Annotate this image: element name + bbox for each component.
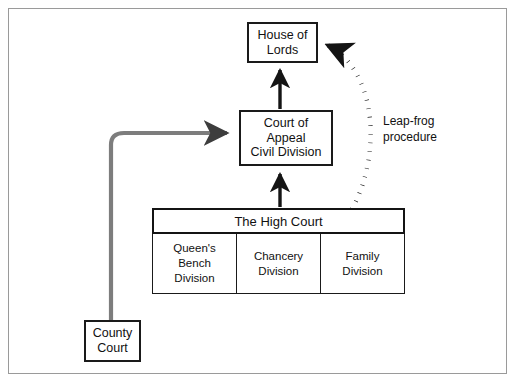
- division-queens-bench-line1: Queen's: [173, 241, 215, 256]
- node-court-of-appeal-line1: Court of: [264, 116, 308, 131]
- leapfrog-label-line2: procedure: [383, 129, 479, 145]
- division-family-line1: Family: [346, 249, 380, 264]
- leapfrog-procedure-label: Leap-frog procedure: [383, 113, 479, 145]
- diagram-canvas: House of Lords Court of Appeal Civil Div…: [0, 0, 518, 389]
- division-chancery-line1: Chancery: [254, 249, 303, 264]
- node-court-of-appeal-line3: Civil Division: [251, 145, 322, 160]
- node-house-of-lords-line2: Lords: [267, 43, 298, 58]
- node-court-of-appeal: Court of Appeal Civil Division: [239, 110, 333, 166]
- high-court-divisions: Queen's Bench Division Chancery Division…: [152, 234, 405, 294]
- division-queens-bench-line2: Bench: [178, 256, 211, 271]
- node-house-of-lords: House of Lords: [247, 22, 318, 63]
- leapfrog-label-line1: Leap-frog: [383, 113, 479, 129]
- division-family: Family Division: [321, 234, 404, 293]
- division-family-line2: Division: [342, 264, 382, 279]
- node-county-court: County Court: [84, 320, 141, 362]
- division-queens-bench-line3: Division: [174, 271, 214, 286]
- division-chancery-line2: Division: [258, 264, 298, 279]
- node-court-of-appeal-line2: Appeal: [267, 131, 306, 146]
- node-high-court-group: The High Court Queen's Bench Division Ch…: [152, 208, 405, 294]
- node-county-court-line1: County: [93, 326, 133, 341]
- division-queens-bench: Queen's Bench Division: [153, 234, 237, 293]
- division-chancery: Chancery Division: [237, 234, 321, 293]
- node-county-court-line2: Court: [97, 341, 128, 356]
- node-house-of-lords-line1: House of: [257, 28, 307, 43]
- high-court-header: The High Court: [152, 208, 405, 234]
